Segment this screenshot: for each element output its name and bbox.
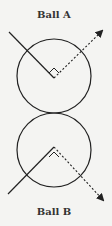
ball-a-incoming-line bbox=[9, 32, 54, 78]
ball-b-outgoing-arrow bbox=[54, 147, 103, 200]
ball-a-outgoing-arrow bbox=[54, 31, 102, 78]
collision-diagram bbox=[0, 0, 112, 226]
ball-b-circle bbox=[17, 113, 91, 187]
ball-a-right-angle-marker bbox=[49, 68, 59, 73]
ball-a-circle bbox=[17, 39, 91, 113]
ball-b-right-angle-marker bbox=[49, 152, 59, 157]
